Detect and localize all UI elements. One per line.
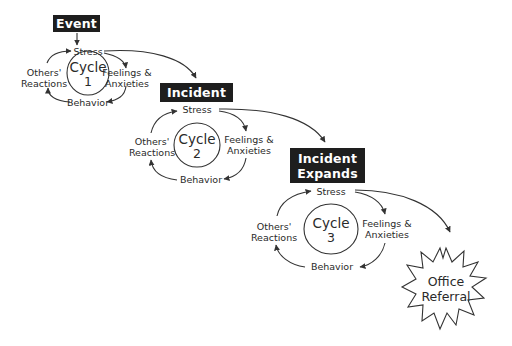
- incident-box: Incident: [160, 83, 233, 102]
- cycle3-others-line2: Reactions: [251, 231, 297, 242]
- cycle3-feelings-line2: Anxieties: [365, 228, 409, 239]
- cycle1-center-label: Cycle 1: [70, 60, 107, 89]
- cycle3-number: 3: [313, 231, 350, 245]
- office-referral-line2: Referral: [421, 289, 470, 304]
- cycle1-title: Cycle: [70, 59, 107, 75]
- cycle3-behavior-label: Behavior: [311, 262, 353, 273]
- cycle3-stress-label: Stress: [316, 187, 345, 198]
- arrow-stress-to-feelings-2: [219, 111, 246, 131]
- incident-expands-label-line2: Expands: [297, 166, 358, 181]
- cycle3-feelings-label: Feelings & Anxieties: [362, 219, 411, 240]
- arrow-others-to-stress-3: [277, 191, 311, 216]
- office-referral-label: Office Referral: [421, 274, 470, 304]
- office-referral-line1: Office: [428, 274, 465, 289]
- cycle2-feelings-line2: Anxieties: [227, 144, 271, 155]
- event-box: Event: [53, 15, 100, 32]
- cycle3-feelings-line1: Feelings &: [362, 218, 411, 229]
- incident-expands-label-line1: Incident: [298, 151, 357, 166]
- cycle2-others-line1: Others': [135, 136, 170, 147]
- escalation-diagram: Event Incident Incident Expands Stress F…: [0, 0, 512, 346]
- cycle2-behavior-label: Behavior: [180, 175, 222, 186]
- arrow-behavior-to-others-2: [151, 160, 177, 180]
- cycle1-behavior-label: Behavior: [67, 98, 109, 109]
- cycle1-others-line1: Others': [27, 67, 62, 78]
- cycle2-others-line2: Reactions: [129, 146, 175, 157]
- incident-label: Incident: [167, 85, 226, 100]
- incident-expands-box: Incident Expands: [290, 148, 365, 183]
- cycle1-feelings-line2: Anxieties: [105, 77, 149, 88]
- cycle1-others-label: Others' Reactions: [21, 68, 67, 89]
- cycle3-others-label: Others' Reactions: [251, 222, 297, 243]
- cycle1-others-line2: Reactions: [21, 77, 67, 88]
- arrow-others-to-stress-2: [151, 111, 177, 133]
- cycle1-feelings-label: Feelings & Anxieties: [102, 68, 151, 89]
- cycle2-number: 2: [179, 147, 216, 161]
- cycle3-center-label: Cycle 3: [313, 216, 350, 245]
- cycle3-title: Cycle: [313, 215, 350, 231]
- event-label: Event: [56, 16, 97, 31]
- arrow-stress-to-feelings-3: [355, 192, 385, 214]
- cycle2-title: Cycle: [179, 131, 216, 147]
- cycle2-center-label: Cycle 2: [179, 132, 216, 161]
- cycle2-others-label: Others' Reactions: [129, 137, 175, 158]
- arrow-feelings-to-behavior-3: [360, 243, 385, 267]
- cycle1-feelings-line1: Feelings &: [102, 67, 151, 78]
- cycle1-stress-label: Stress: [73, 47, 102, 58]
- cycle2-stress-label: Stress: [182, 105, 211, 116]
- cycle2-feelings-label: Feelings & Anxieties: [224, 135, 273, 156]
- arrow-feelings-to-behavior-2: [224, 158, 246, 179]
- cycle3-others-line1: Others': [257, 221, 292, 232]
- cycle2-feelings-line1: Feelings &: [224, 134, 273, 145]
- arrow-others-to-stress-1: [47, 51, 71, 63]
- cycle1-number: 1: [70, 75, 107, 89]
- arrow-behavior-to-others-3: [276, 245, 305, 267]
